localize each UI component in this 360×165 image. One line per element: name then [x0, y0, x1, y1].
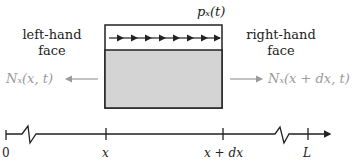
distributed-load-label: pₓ(t): [197, 4, 225, 19]
left-face-line1: left-hand: [12, 27, 92, 43]
axis-tick-x-plus-dx: x + dx: [204, 146, 243, 160]
right-face-line2: face: [236, 43, 326, 59]
axis-tick-0: 0: [2, 146, 10, 160]
axis-tick-x: x: [102, 146, 109, 160]
right-hand-face-label: right-hand face: [236, 27, 326, 59]
right-force-label: Nₓ(x + dx, t): [268, 71, 350, 86]
axis-tick-L: L: [303, 146, 311, 160]
left-face-line2: face: [12, 43, 92, 59]
left-hand-face-label: left-hand face: [12, 27, 92, 59]
x-axis: [6, 126, 330, 143]
left-force-label: Nₓ(x, t): [6, 71, 53, 86]
right-face-line1: right-hand: [236, 27, 326, 43]
